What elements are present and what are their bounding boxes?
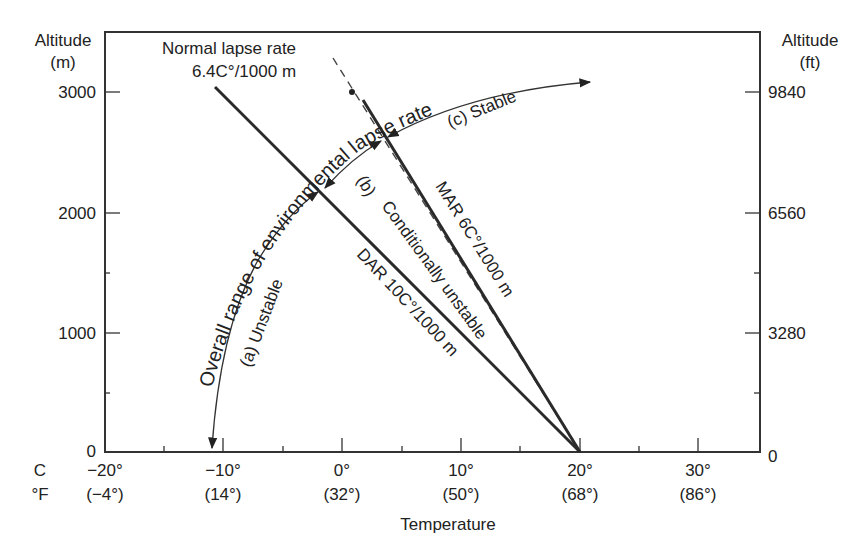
dar-label: DAR 10C°/1000 m	[353, 245, 462, 360]
x-row-label-celsius: C	[34, 461, 46, 480]
conditionally-unstable-b-label: (b)	[353, 172, 380, 200]
right-tick-3280: 3280	[768, 324, 806, 343]
right-tick-9840: 9840	[768, 83, 806, 102]
x-axis-title: Temperature	[400, 515, 495, 534]
right-axis-title-line2: (ft)	[800, 53, 821, 72]
normal-lapse-rate-dot	[349, 89, 355, 95]
x-tick-c-10: 10°	[448, 461, 474, 480]
x-tick-c-neg10: −10°	[205, 461, 241, 480]
right-tick-0: 0	[768, 447, 777, 466]
left-tick-2000: 2000	[58, 204, 96, 223]
left-tick-0: 0	[87, 442, 96, 461]
x-tick-f-32: (32°)	[323, 485, 360, 504]
x-row-label-fahrenheit: °F	[31, 485, 48, 504]
plot-frame	[105, 32, 760, 452]
dar-line	[215, 87, 580, 452]
x-tick-f-50: (50°)	[442, 485, 479, 504]
x-tick-f-86: (86°)	[679, 485, 716, 504]
environmental-range-label-path: Overall range of environmental lapse rat…	[195, 98, 435, 389]
x-tick-c-30: 30°	[685, 461, 711, 480]
left-axis-title-line1: Altitude	[35, 31, 92, 50]
x-tick-f-neg4: (−4°)	[86, 485, 124, 504]
right-axis-ticks	[745, 92, 760, 393]
environmental-range-label: Overall range of environmental lapse rat…	[195, 98, 435, 389]
lapse-rate-diagram: Altitude (m) 0 1000 2000 3000 Altitude (…	[0, 0, 863, 550]
normal-lapse-rate-label-line1: Normal lapse rate	[162, 39, 296, 58]
right-tick-6560: 6560	[768, 204, 806, 223]
x-tick-c-neg20: −20°	[87, 461, 123, 480]
right-axis-title-line1: Altitude	[782, 31, 839, 50]
left-tick-1000: 1000	[58, 324, 96, 343]
x-tick-c-20: 20°	[567, 461, 593, 480]
x-tick-f-68: (68°)	[561, 485, 598, 504]
left-axis-title-line2: (m)	[50, 53, 75, 72]
left-axis-ticks	[105, 92, 120, 393]
stable-label: (c) Stable	[444, 87, 519, 132]
x-tick-f-14: (14°)	[204, 485, 241, 504]
x-tick-c-0: 0°	[334, 461, 350, 480]
environmental-range-arc	[212, 82, 590, 448]
normal-lapse-rate-label-line2: 6.4C°/1000 m	[192, 62, 296, 81]
left-tick-3000: 3000	[58, 83, 96, 102]
bottom-axis-ticks	[164, 438, 698, 452]
